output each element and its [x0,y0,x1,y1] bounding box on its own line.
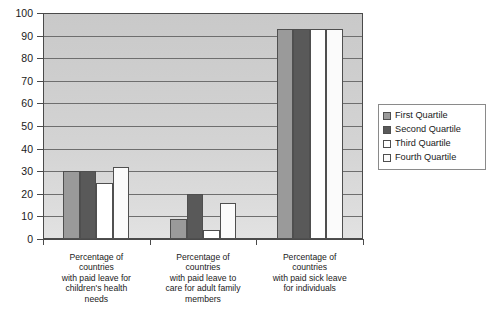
x-axis-category-line: children's health [35,283,158,293]
y-tick-label: 30 [21,166,33,177]
x-axis-category-line: members [142,294,265,304]
y-tick-label: 0 [27,234,33,245]
bar [80,171,97,239]
x-axis-category-line: needs [35,294,158,304]
x-axis-category-line: for individuals [248,283,371,293]
bar [326,29,343,239]
x-axis-category-line: with paid leave for [35,273,158,283]
legend-item[interactable]: Second Quartile [383,123,480,137]
legend-swatch-icon [383,126,391,134]
x-axis-category-line: Percentage of [35,252,158,262]
x-tick-mark [363,239,364,245]
x-axis-category-label: Percentage ofcountrieswith paid leave fo… [35,252,158,304]
legend-label: Fourth Quartile [395,153,456,162]
bar [277,29,294,239]
x-axis-category-line: care for adult family [142,283,265,293]
legend-item[interactable]: First Quartile [383,109,480,123]
bar [187,194,204,239]
bar-chart: 0102030405060708090100 First QuartileSec… [0,0,490,324]
y-tick-label: 20 [21,189,33,200]
bar [63,171,80,239]
legend-label: Second Quartile [395,125,461,134]
y-axis: 0102030405060708090100 [0,0,43,240]
bar [220,203,237,239]
y-tick-label: 50 [21,121,33,132]
x-axis-category-line: Percentage of [248,252,371,262]
x-axis-category-label: Percentage ofcountrieswith paid sick lea… [248,252,371,294]
bars-layer [43,13,363,239]
bar [203,230,220,239]
legend-swatch-icon [383,154,391,162]
legend-swatch-icon [383,112,391,120]
x-tick-mark [256,239,257,245]
x-axis-category-line: countries [142,262,265,272]
y-tick-label: 70 [21,76,33,87]
x-axis-category-line: Percentage of [142,252,265,262]
chart-legend: First QuartileSecond QuartileThird Quart… [378,104,486,170]
x-axis-category-line: with paid leave to [142,273,265,283]
legend-swatch-icon [383,140,391,148]
x-axis-category-line: countries [35,262,158,272]
x-axis-category-line: with paid sick leave [248,273,371,283]
bar [96,183,113,240]
x-tick-mark [43,239,44,245]
legend-label: Third Quartile [395,139,451,148]
x-axis-line [43,239,364,240]
legend-label: First Quartile [395,111,448,120]
y-tick-label: 100 [15,8,33,19]
bar [310,29,327,239]
bar-group [63,13,129,239]
bar [293,29,310,239]
y-tick-label: 80 [21,53,33,64]
bar-group [170,13,236,239]
bar-group [277,13,343,239]
x-tick-mark [150,239,151,245]
bar [113,167,130,239]
y-tick-label: 10 [21,211,33,222]
x-axis-category-line: countries [248,262,371,272]
x-axis-category-label: Percentage ofcountrieswith paid leave to… [142,252,265,304]
legend-item[interactable]: Fourth Quartile [383,151,480,165]
y-tick-label: 40 [21,144,33,155]
bar [170,219,187,239]
y-tick-label: 90 [21,31,33,42]
legend-item[interactable]: Third Quartile [383,137,480,151]
y-tick-label: 60 [21,98,33,109]
